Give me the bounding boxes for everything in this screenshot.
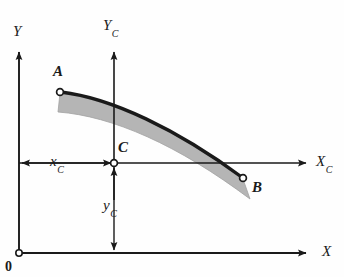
point-label-c: C (118, 140, 128, 155)
axis-label-x: X (322, 244, 331, 259)
axis-label-xc: XC (316, 154, 332, 172)
point-marker-a (57, 89, 64, 96)
point-marker-origin (16, 250, 22, 256)
axis-label-yc-subscript: C (112, 28, 119, 39)
point-marker-c (111, 160, 118, 167)
point-label-a: A (53, 64, 63, 79)
dimension-label-yc: yC (103, 198, 116, 216)
dimension-label-xc: xC (50, 154, 63, 172)
origin-label: 0 (5, 260, 12, 274)
coordinate-diagram-figure: Y YC XC X A B C xC yC 0 (0, 0, 344, 277)
dimension-label-xc-subscript: C (57, 164, 64, 175)
point-label-b: B (252, 180, 262, 195)
dimension-label-yc-main: y (103, 197, 110, 213)
shaded-beam-band (58, 93, 250, 199)
axis-label-yc-main: Y (103, 17, 111, 33)
dimension-label-xc-main: x (50, 153, 57, 169)
axis-label-y: Y (13, 24, 21, 39)
axis-label-xc-subscript: C (326, 164, 333, 175)
point-marker-b (240, 175, 247, 182)
dimension-label-yc-subscript: C (110, 208, 117, 219)
diagram-canvas (0, 0, 344, 277)
axis-label-yc: YC (103, 18, 118, 36)
axis-label-xc-main: X (316, 153, 325, 169)
